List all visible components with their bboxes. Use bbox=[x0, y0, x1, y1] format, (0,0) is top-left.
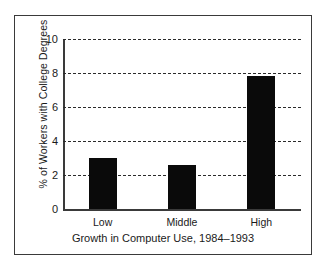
x-axis-line bbox=[63, 209, 301, 211]
bar bbox=[247, 76, 275, 209]
bar bbox=[89, 158, 117, 209]
y-tick-label: 10 bbox=[46, 33, 58, 45]
plot-area: 0246810LowMiddleHigh bbox=[63, 39, 301, 209]
y-tick-label: 2 bbox=[52, 169, 58, 181]
chart-frame: % of Workers with College Degrees 024681… bbox=[14, 15, 312, 255]
y-axis-line bbox=[63, 39, 65, 209]
x-tick-label: Middle bbox=[167, 216, 198, 228]
gridline bbox=[63, 39, 301, 40]
y-tick-label: 6 bbox=[52, 101, 58, 113]
y-tick-label: 0 bbox=[52, 203, 58, 215]
x-tick-label: High bbox=[251, 216, 273, 228]
gridline bbox=[63, 73, 301, 74]
x-tick-label: Low bbox=[93, 216, 112, 228]
y-tick-label: 4 bbox=[52, 135, 58, 147]
bar bbox=[168, 165, 196, 209]
x-axis-title: Growth in Computer Use, 1984–1993 bbox=[14, 232, 312, 244]
y-tick-label: 8 bbox=[52, 67, 58, 79]
figure: % of Workers with College Degrees 024681… bbox=[0, 0, 328, 270]
